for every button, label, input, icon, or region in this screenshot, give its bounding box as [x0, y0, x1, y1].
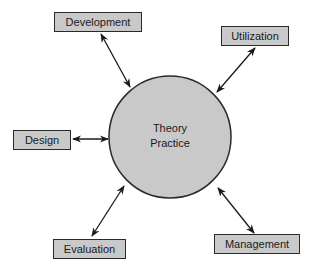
arrow-development [101, 34, 130, 87]
node-design: Design [13, 130, 71, 150]
arrow-evaluation [92, 186, 124, 236]
node-utilization: Utilization [221, 26, 289, 46]
arrow-management [218, 188, 254, 233]
arrow-utilization [217, 48, 255, 92]
node-management: Management [214, 234, 300, 254]
node-evaluation: Evaluation [53, 239, 126, 259]
center-label-practice: Practice [120, 136, 220, 151]
node-development: Development [54, 12, 142, 32]
center-label-theory: Theory [120, 121, 220, 136]
